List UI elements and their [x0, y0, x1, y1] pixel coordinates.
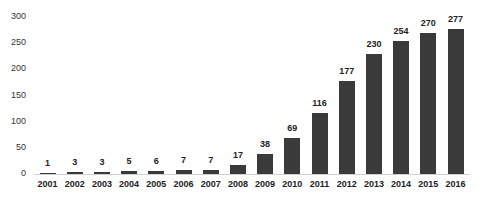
- bar-2003: [94, 172, 110, 174]
- data-label: 5: [116, 156, 143, 166]
- bar-2014: [393, 41, 409, 174]
- x-tick-label: 2012: [333, 179, 360, 189]
- data-label: 230: [360, 39, 387, 49]
- bar-2012: [339, 81, 355, 174]
- bar-2011: [312, 113, 328, 174]
- y-tick-label: 0: [0, 168, 26, 178]
- x-tick-label: 2011: [306, 179, 333, 189]
- data-label: 270: [415, 18, 442, 28]
- data-label: 69: [279, 123, 306, 133]
- x-tick-label: 2010: [279, 179, 306, 189]
- data-label: 7: [170, 155, 197, 165]
- y-tick-label: 300: [0, 11, 26, 21]
- bar-2006: [176, 170, 192, 174]
- data-label: 277: [442, 14, 469, 24]
- x-tick-label: 2004: [116, 179, 143, 189]
- x-tick-label: 2007: [197, 179, 224, 189]
- data-label: 17: [224, 150, 251, 160]
- bar-chart: 0501001502002503001200132002320035200462…: [0, 0, 477, 197]
- x-tick-label: 2013: [360, 179, 387, 189]
- data-label: 177: [333, 66, 360, 76]
- y-tick-label: 150: [0, 90, 26, 100]
- bar-2016: [448, 29, 464, 174]
- data-label: 38: [252, 139, 279, 149]
- x-tick-label: 2001: [34, 179, 61, 189]
- data-label: 116: [306, 98, 333, 108]
- x-axis-line: [34, 174, 470, 175]
- y-tick-label: 250: [0, 37, 26, 47]
- bar-2010: [284, 138, 300, 174]
- bar-2004: [121, 171, 137, 174]
- x-tick-label: 2002: [61, 179, 88, 189]
- x-tick-label: 2003: [88, 179, 115, 189]
- bar-2001: [40, 173, 56, 174]
- data-label: 1: [34, 158, 61, 168]
- bar-2013: [366, 54, 382, 174]
- bar-2008: [230, 165, 246, 174]
- data-label: 7: [197, 155, 224, 165]
- y-tick-label: 200: [0, 63, 26, 73]
- x-tick-label: 2014: [388, 179, 415, 189]
- data-label: 6: [143, 156, 170, 166]
- y-tick-label: 50: [0, 142, 26, 152]
- x-tick-label: 2009: [252, 179, 279, 189]
- x-tick-label: 2016: [442, 179, 469, 189]
- data-label: 3: [88, 157, 115, 167]
- y-tick-label: 100: [0, 116, 26, 126]
- x-tick-label: 2015: [415, 179, 442, 189]
- x-tick-label: 2006: [170, 179, 197, 189]
- bar-2007: [203, 170, 219, 174]
- bar-2015: [420, 33, 436, 174]
- bar-2005: [148, 171, 164, 174]
- data-label: 254: [388, 26, 415, 36]
- x-tick-label: 2008: [224, 179, 251, 189]
- bar-2002: [67, 172, 83, 174]
- x-tick-label: 2005: [143, 179, 170, 189]
- data-label: 3: [61, 157, 88, 167]
- bar-2009: [257, 154, 273, 174]
